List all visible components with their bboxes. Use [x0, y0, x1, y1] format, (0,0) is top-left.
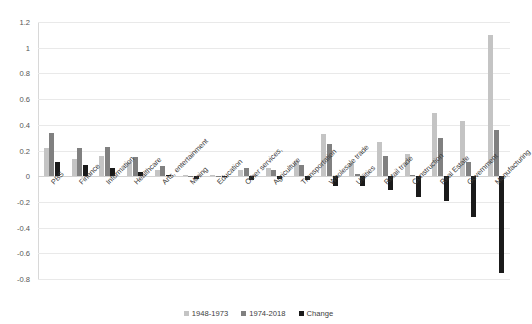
bar-1 — [77, 148, 82, 176]
legend-swatch-icon — [241, 311, 246, 316]
y-axis-tick-label: 1.2 — [19, 18, 30, 27]
y-axis-tick-label: 0.2 — [19, 146, 30, 155]
legend-item[interactable]: Change — [299, 309, 334, 318]
y-axis-tick-label: 0.4 — [19, 120, 30, 129]
y-axis-labels: 1.210.80.60.40.20-0.2-0.4-0.6-0.8 — [0, 22, 34, 279]
bar-0 — [238, 170, 243, 176]
x-axis-labels: PBSFinanceInformationHealthcareArts, ent… — [38, 180, 510, 290]
chart-legend: 1948-19731974-2018Change — [0, 309, 517, 318]
legend-item[interactable]: 1948-1973 — [184, 309, 228, 318]
legend-label: 1974-2018 — [249, 309, 285, 318]
y-axis-tick-label: -0.8 — [17, 275, 30, 284]
legend-label: Change — [307, 309, 334, 318]
y-axis-tick-label: 1 — [26, 43, 30, 52]
bar-1 — [383, 156, 388, 177]
bar-0 — [155, 170, 160, 176]
legend-swatch-icon — [299, 311, 304, 316]
legend-label: 1948-1973 — [192, 309, 228, 318]
bar-0 — [266, 168, 271, 176]
legend-swatch-icon — [184, 311, 189, 316]
y-axis-tick-label: 0.6 — [19, 95, 30, 104]
bar-0 — [377, 142, 382, 177]
y-axis-tick-label: 0 — [26, 172, 30, 181]
bar-1 — [49, 133, 54, 177]
y-axis-tick-label: -0.2 — [17, 197, 30, 206]
y-axis-tick-label: -0.4 — [17, 223, 30, 232]
y-axis-tick-label: -0.6 — [17, 249, 30, 258]
bar-0 — [44, 148, 49, 176]
y-axis-tick-label: 0.8 — [19, 69, 30, 78]
bar-0 — [210, 175, 215, 176]
bar-0 — [183, 175, 188, 176]
bar-0 — [72, 159, 77, 176]
bar-1 — [105, 147, 110, 177]
legend-item[interactable]: 1974-2018 — [241, 309, 285, 318]
